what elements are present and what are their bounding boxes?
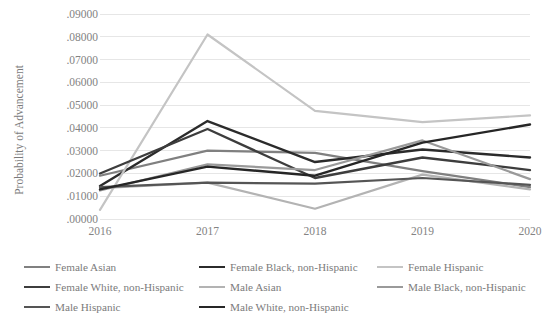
x-tick-label: 2018 bbox=[285, 224, 345, 238]
legend-item[interactable]: Female Asian bbox=[24, 258, 199, 276]
legend-item[interactable]: Female Black, non-Hispanic bbox=[199, 258, 377, 276]
x-tick-label: 2019 bbox=[393, 224, 453, 238]
legend-item-label: Male Asian bbox=[230, 280, 281, 294]
legend-item[interactable]: Female Hispanic bbox=[377, 258, 552, 276]
legend-swatch-icon bbox=[377, 286, 403, 289]
legend-item-label: Male Black, non-Hispanic bbox=[408, 280, 526, 294]
legend-item-label: Female White, non-Hispanic bbox=[55, 280, 184, 294]
legend-swatch-icon bbox=[377, 266, 403, 269]
legend-swatch-icon bbox=[24, 306, 50, 309]
legend-swatch-icon bbox=[24, 286, 50, 289]
chart-legend: Female AsianFemale Black, non-HispanicFe… bbox=[24, 258, 552, 320]
legend-item-label: Female Asian bbox=[55, 260, 116, 274]
legend-swatch-icon bbox=[199, 266, 225, 269]
legend-swatch-icon bbox=[24, 266, 50, 269]
legend-item[interactable]: Male Black, non-Hispanic bbox=[377, 278, 552, 296]
legend-item-label: Female Black, non-Hispanic bbox=[230, 260, 358, 274]
x-axis-tick-labels: 20162017201820192020 bbox=[0, 224, 552, 244]
legend-item[interactable]: Female White, non-Hispanic bbox=[24, 278, 199, 296]
plot-area bbox=[0, 0, 552, 245]
legend-item-label: Female Hispanic bbox=[408, 260, 484, 274]
legend-row: Female AsianFemale Black, non-HispanicFe… bbox=[24, 258, 552, 278]
legend-row: Male HispanicMale White, non-Hispanic bbox=[24, 298, 552, 318]
legend-item[interactable]: Male Hispanic bbox=[24, 298, 199, 316]
legend-item[interactable]: Male White, non-Hispanic bbox=[199, 298, 377, 316]
x-tick-label: 2017 bbox=[178, 224, 238, 238]
legend-item-label: Male White, non-Hispanic bbox=[230, 300, 349, 314]
legend-swatch-icon bbox=[199, 306, 225, 309]
chart-container: Probability of Advancement .00000.01000.… bbox=[0, 0, 552, 326]
legend-item[interactable]: Male Asian bbox=[199, 278, 377, 296]
legend-swatch-icon bbox=[199, 286, 225, 289]
x-tick-label: 2020 bbox=[500, 224, 552, 238]
legend-item-label: Male Hispanic bbox=[55, 300, 121, 314]
legend-row: Female White, non-HispanicMale AsianMale… bbox=[24, 278, 552, 298]
x-tick-label: 2016 bbox=[70, 224, 130, 238]
